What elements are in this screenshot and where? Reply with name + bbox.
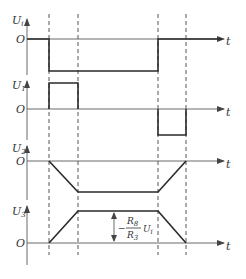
panel-u1: U1 O t <box>12 79 231 140</box>
minus-sign: − <box>118 223 126 233</box>
timing-diagram: Ui O t U1 O t U2 O t U3 O t − <box>0 0 246 279</box>
y-label-u2: U2 <box>12 142 26 156</box>
panel-u3: U3 O t − R8 R3 Ui <box>12 205 231 265</box>
y-label-ui: Ui <box>12 14 24 28</box>
factor: Ui <box>143 224 153 236</box>
y-label-u1: U1 <box>12 79 26 93</box>
numerator: R8 <box>126 216 139 228</box>
t-label: t <box>226 158 231 171</box>
t-label: t <box>226 35 231 48</box>
panel-u2: U2 O t <box>12 142 231 200</box>
origin-label: O <box>16 103 25 116</box>
t-label: t <box>226 240 231 253</box>
arrow-down-icon <box>111 235 117 242</box>
panel-ui: Ui O t <box>12 14 231 75</box>
y-label-u3: U3 <box>12 205 26 219</box>
waveform-u1-pos <box>49 83 78 109</box>
origin-label: O <box>16 155 25 168</box>
waveform-u2 <box>49 161 186 192</box>
t-label: t <box>226 106 231 119</box>
waveform-ui <box>27 39 222 71</box>
origin-label: O <box>16 33 25 46</box>
denominator: R3 <box>126 230 139 242</box>
waveform-u1-neg <box>158 109 186 135</box>
origin-label: O <box>16 237 25 250</box>
amplitude-annotation: − R8 R3 Ui <box>118 216 153 242</box>
arrow-up-icon <box>111 212 117 219</box>
